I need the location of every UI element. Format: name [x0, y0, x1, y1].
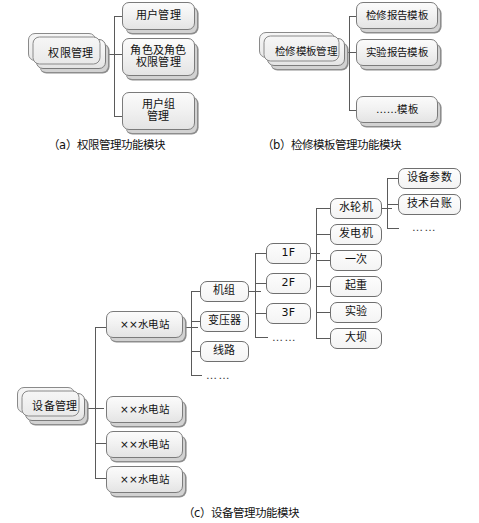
node-label: 水轮机: [339, 202, 373, 214]
node-label: 起重: [345, 280, 368, 292]
node-label: 3F: [282, 307, 296, 319]
node-technical-ledger[interactable]: 技术台账: [398, 194, 461, 215]
node-role-and-role-permission-management[interactable]: 角色及角色 权限管理: [122, 38, 195, 76]
node-experiment-report-template[interactable]: 实验报告模板: [356, 39, 438, 66]
node-label: 技术台账: [407, 198, 452, 210]
node-label: 设备参数: [407, 172, 452, 184]
figure-diagram: 权限管理 用户管理 角色及角色 权限管理 用户组 管理 （a）权限管理功能模块 …: [0, 0, 479, 523]
caption-section-c: （c）设备管理功能模块: [183, 504, 299, 520]
node-label: 权限管理: [48, 48, 93, 60]
node-label: 变压器: [208, 315, 242, 327]
node-label-line2: 权限管理: [136, 57, 181, 69]
ellipsis-device-children: ……: [412, 221, 437, 234]
node-label: ……模板: [376, 104, 418, 116]
node-other-template[interactable]: ……模板: [356, 96, 438, 123]
node-label: 检修模板管理: [275, 46, 337, 58]
node-label: 设备管理: [32, 401, 77, 413]
node-label: 2F: [282, 277, 296, 289]
node-hydropower-station-3[interactable]: ××水电站: [106, 431, 183, 458]
node-label: 实验: [345, 306, 368, 318]
node-label: 发电机: [339, 228, 373, 240]
caption-section-b: （b）检修模板管理功能模块: [262, 136, 401, 152]
ellipsis-station-children: ……: [206, 369, 231, 382]
node-hydropower-station-4[interactable]: ××水电站: [106, 466, 183, 493]
node-transmission-line[interactable]: 线路: [200, 341, 249, 362]
node-label: ××水电站: [120, 439, 169, 451]
node-equipment-management[interactable]: 设备管理: [25, 393, 85, 421]
node-generating-unit[interactable]: 机组: [200, 281, 249, 302]
node-floor-1f[interactable]: 1F: [266, 243, 311, 264]
node-maintenance-template-management[interactable]: 检修模板管理: [267, 38, 345, 66]
node-user-group-management[interactable]: 用户组 管理: [122, 92, 195, 130]
node-hoisting-equipment[interactable]: 起重: [330, 276, 382, 297]
node-label: 线路: [213, 345, 236, 357]
node-transformer[interactable]: 变压器: [200, 311, 249, 332]
node-permission-management[interactable]: 权限管理: [36, 39, 106, 69]
node-hydropower-station-1[interactable]: ××水电站: [106, 311, 183, 338]
node-dam[interactable]: 大坝: [330, 328, 382, 349]
ellipsis-unit-children: ……: [272, 331, 297, 344]
node-user-management[interactable]: 用户管理: [122, 2, 195, 30]
node-label: 用户管理: [136, 10, 181, 22]
node-label: 一次: [345, 254, 368, 266]
node-hydropower-station-2[interactable]: ××水电站: [106, 396, 183, 423]
caption-section-a: （a）权限管理功能模块: [48, 136, 165, 152]
node-device-parameters[interactable]: 设备参数: [398, 168, 461, 189]
node-floor-2f[interactable]: 2F: [266, 273, 311, 294]
node-maintenance-report-template[interactable]: 检修报告模板: [356, 2, 438, 29]
connector-lines: [0, 0, 479, 523]
node-label: 实验报告模板: [366, 47, 428, 59]
node-water-turbine[interactable]: 水轮机: [330, 198, 382, 219]
node-label: ××水电站: [120, 404, 169, 416]
node-label-line2: 管理: [147, 111, 170, 123]
node-label: 检修报告模板: [366, 10, 428, 22]
node-floor-3f[interactable]: 3F: [266, 303, 311, 324]
node-experiment-equipment[interactable]: 实验: [330, 302, 382, 323]
node-primary-equipment[interactable]: 一次: [330, 250, 382, 271]
node-label: 大坝: [345, 332, 368, 344]
node-label: ××水电站: [120, 319, 169, 331]
node-label: 1F: [282, 247, 296, 259]
node-generator[interactable]: 发电机: [330, 224, 382, 245]
node-label: ××水电站: [120, 474, 169, 486]
node-label: 机组: [213, 285, 236, 297]
